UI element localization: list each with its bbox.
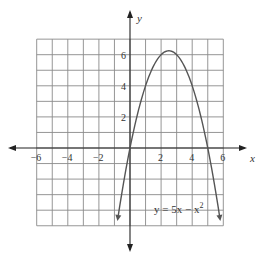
x-tick-label: 4: [189, 152, 194, 163]
y-tick-labels: 246: [121, 50, 126, 123]
equation-label: y = 5x − x2: [154, 201, 203, 215]
y-tick-label: 6: [121, 50, 126, 61]
x-tick-label: −2: [93, 152, 104, 163]
x-tick-label: −4: [62, 152, 73, 163]
x-tick-label: −6: [31, 152, 42, 163]
x-axis-right-arrow-icon: [239, 145, 247, 151]
y-axis-label: y: [136, 12, 142, 24]
curve-right-arrow-icon: [216, 215, 222, 221]
y-axis-up-arrow-icon: [127, 10, 133, 18]
curve-left-arrow-icon: [115, 215, 121, 221]
x-tick-label: 2: [158, 152, 163, 163]
x-axis-label: x: [249, 152, 255, 164]
parabola-curve: [118, 51, 219, 215]
y-tick-label: 2: [121, 112, 126, 123]
y-tick-label: 4: [121, 81, 126, 92]
y-axis-down-arrow-icon: [127, 244, 133, 252]
x-axis-left-arrow-icon: [8, 145, 16, 151]
graph: −6−4−2246 246 x y y = 5x − x2: [0, 0, 259, 257]
x-tick-label: 6: [220, 152, 225, 163]
equation-superscript: 2: [199, 201, 203, 210]
equation-main: y = 5x − x: [154, 203, 200, 215]
